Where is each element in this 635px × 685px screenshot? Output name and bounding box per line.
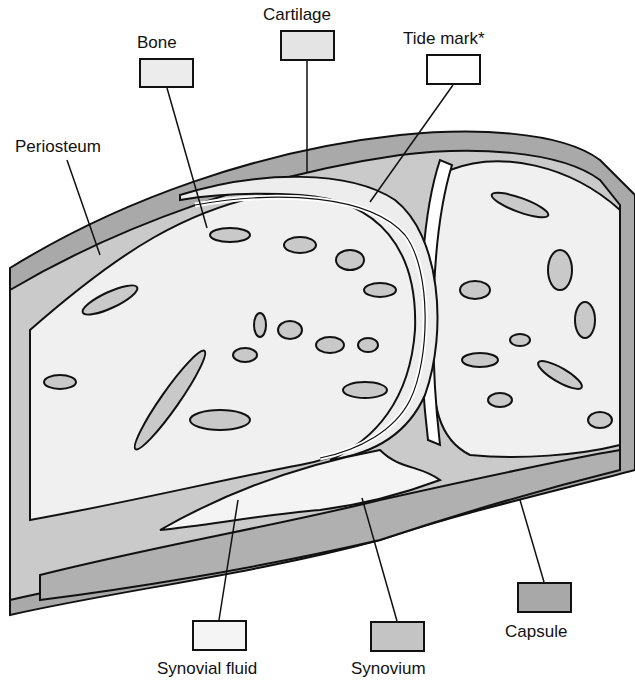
label-synovium: Synovium [351,660,426,677]
label-capsule: Capsule [505,623,567,640]
label-bone: Bone [137,34,177,51]
key-box-bone[interactable] [139,58,194,88]
label-cartilage: Cartilage [263,6,331,23]
key-box-synovium[interactable] [370,621,425,652]
key-box-capsule[interactable] [517,582,572,613]
key-box-tide-mark[interactable] [426,54,481,85]
label-periosteum: Periosteum [15,138,101,155]
key-box-synovial-fluid[interactable] [192,620,247,651]
label-tide-mark: Tide mark* [403,30,485,47]
key-box-cartilage[interactable] [280,30,335,61]
label-synovial-fluid: Synovial fluid [157,660,257,677]
